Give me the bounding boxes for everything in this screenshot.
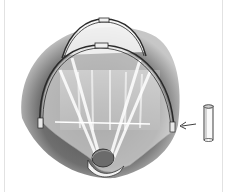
pointer-arrow (180, 122, 196, 129)
left-hoop-sleeve (38, 118, 43, 128)
row-cover-illustration (0, 0, 230, 192)
rear-hoop-connector (99, 18, 109, 22)
pipe-fitting (204, 105, 213, 142)
right-hoop-sleeve (170, 122, 175, 132)
front-hoop-connector (95, 43, 108, 48)
illustration-frame (0, 0, 230, 192)
